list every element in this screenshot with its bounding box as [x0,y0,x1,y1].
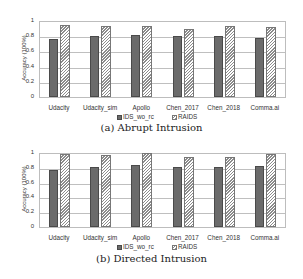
y-tick-label: 0.6 [22,179,34,185]
gridline [40,198,285,199]
gridline [40,169,285,170]
figure-caption: (b) Directed Intrusion [0,253,303,264]
y-tick-label: 1 [22,149,34,155]
bar-raids [101,155,111,227]
bar-raids [60,154,70,227]
bar-raids [142,153,152,227]
bar-ids-wo-rc [214,167,223,227]
y-tick-label: 0.8 [22,164,34,170]
legend-label: IDS_wo_rc [123,243,154,250]
legend-label: RAIDS [178,243,197,250]
bar-ids-wo-rc [173,167,182,227]
bar-ids-wo-rc [49,170,58,227]
plot-area [39,153,286,228]
y-tick-label: 0.2 [22,208,34,214]
legend-swatch-raids [172,245,177,250]
bar-ids-wo-rc [131,165,140,227]
x-tick-label: Comma.ai [240,234,290,241]
gridline [40,184,285,185]
gridline [40,213,285,214]
y-tick-label: 0 [22,223,34,229]
legend-item-ids-wo-rc: IDS_wo_rc [117,243,154,250]
bar-ids-wo-rc [90,167,99,227]
bar-ids-wo-rc [255,166,264,227]
chart-directed-intrusion: Accuracy (100%)00.20.40.60.81UdacityUdac… [0,0,303,279]
legend-item-raids: RAIDS [172,243,197,250]
legend-swatch-ids [117,245,122,250]
bar-raids [225,157,235,227]
y-tick-label: 0.4 [22,193,34,199]
bar-raids [184,157,194,227]
bar-raids [266,154,276,227]
